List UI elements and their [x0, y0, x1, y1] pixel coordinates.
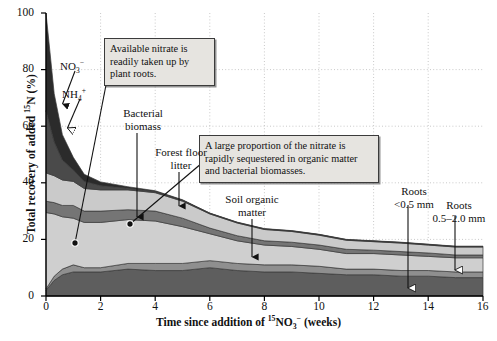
leader-nh4 [68, 99, 81, 128]
series-label-no3-sub: 3 [76, 66, 80, 75]
x-axis-title-sub: 3 [293, 322, 297, 331]
series-label-forest-floor-litter: Forest floorlitter [148, 146, 214, 171]
series-label-som-line1: Soil organic [225, 193, 278, 205]
figure-stacked-area-15n-recovery: 100 80 60 40 20 0 0 2 4 6 8 10 12 14 16 … [0, 0, 497, 341]
x-axis-title-pre: Time since addition of [156, 316, 268, 328]
y-axis-title: Total recovery of added 15N (%) [25, 39, 37, 269]
series-label-som-line2: matter [238, 206, 266, 218]
series-label-soil-organic-matter: Soil organicmatter [214, 193, 290, 218]
x-axis-title-base: NO [275, 316, 292, 328]
y-axis-title-post: N (%) [25, 74, 37, 105]
series-label-no3-sup: − [80, 58, 84, 67]
series-label-nh4-sup: + [82, 86, 86, 95]
series-label-no3-base: NO [60, 60, 76, 72]
series-label-ffl-line1: Forest floor [155, 146, 207, 158]
x-tick-2: 2 [86, 301, 116, 313]
x-tick-14: 14 [413, 301, 443, 313]
annotation-sequestration: A large proportion of the nitrate is rap… [199, 135, 379, 183]
series-label-roots-coarse-line1: Roots [446, 199, 472, 211]
y-tick-0: 0 [4, 290, 34, 302]
series-label-roots-coarse: Roots0.5–2.0 mm [428, 199, 490, 224]
series-label-roots-fine-line1: Roots [401, 185, 427, 197]
y-axis-title-pre: Total recovery of added [25, 113, 37, 234]
x-tick-12: 12 [359, 301, 389, 313]
x-tick-10: 10 [304, 301, 334, 313]
x-tick-16: 16 [468, 301, 497, 313]
series-label-bacterial-line1: Bacterial [123, 107, 163, 119]
annotation-nitrate-uptake: Available nitrate is readily taken up by… [104, 38, 215, 86]
series-label-nh4: NH4+ [62, 88, 86, 101]
x-tick-4: 4 [140, 301, 170, 313]
x-tick-6: 6 [195, 301, 225, 313]
y-tick-100: 100 [4, 7, 34, 19]
x-tick-8: 8 [249, 301, 279, 313]
series-label-nh4-base: NH [62, 88, 78, 100]
x-axis-title-post: (weeks) [301, 316, 341, 328]
series-label-no3: NO3− [60, 60, 84, 73]
x-axis-title: Time since addition of 15NO3− (weeks) [0, 316, 497, 328]
series-label-bacterial-line2: biomass [125, 120, 161, 132]
series-label-bacterial-biomass: Bacterialbiomass [113, 107, 173, 132]
x-tick-0: 0 [31, 301, 61, 313]
series-label-ffl-line2: litter [171, 159, 192, 171]
series-label-roots-coarse-line2: 0.5–2.0 mm [433, 212, 486, 224]
y-axis-title-sup: 15 [23, 105, 32, 113]
series-label-nh4-sub: 4 [78, 94, 82, 103]
